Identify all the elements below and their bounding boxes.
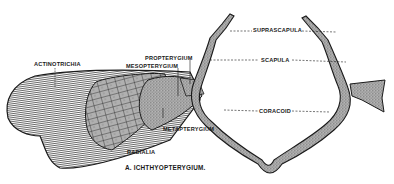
diagram-illustration: [0, 0, 394, 184]
label-radialia: RADIALIA: [127, 150, 155, 156]
label-mesopterygium: MESOPTERYGIUM: [126, 64, 178, 70]
figure-caption: A. ICHTHYOPTERYGIUM.: [125, 165, 205, 171]
label-coracoid: CORACOID: [259, 109, 291, 115]
shoulder-girdle: [191, 14, 350, 173]
label-propterygium: PROPTERYGIUM: [145, 56, 193, 62]
label-metapterygium: METAPTERYGIUM: [163, 127, 214, 133]
label-suprascapula: SUPRASCAPULA: [253, 28, 302, 34]
right-fin-stub: [350, 80, 385, 112]
label-actinotrichia: ACTINOTRICHIA: [34, 62, 81, 68]
ichthyopterygium-diagram: ACTINOTRICHIA PROPTERYGIUM MESOPTERYGIUM…: [0, 0, 394, 184]
label-scapula: SCAPULA: [261, 58, 289, 64]
